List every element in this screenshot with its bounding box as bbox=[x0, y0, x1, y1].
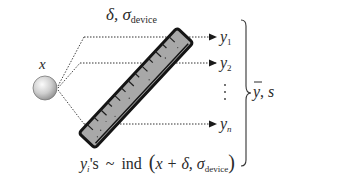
device-parameters-label: δ, σdevice bbox=[106, 6, 157, 25]
object-ball-icon bbox=[33, 76, 57, 100]
bias-sigma-symbol: δ, σ bbox=[106, 5, 131, 24]
ruler-icon bbox=[79, 28, 193, 148]
measurement-diagram: δ, σdevice x y1 y2 yn y, s yi's ~ ind (x… bbox=[0, 0, 337, 183]
output-y2: y2 bbox=[220, 55, 232, 73]
sd-symbol: s bbox=[268, 83, 274, 100]
ellipsis-vertical-icon bbox=[224, 84, 226, 100]
output-yn: yn bbox=[220, 116, 232, 134]
model-formula: yi's ~ ind (x + δ, σdevice) bbox=[80, 152, 235, 174]
output-y1: y1 bbox=[220, 29, 232, 47]
device-subscript: device bbox=[131, 14, 157, 25]
brace-icon bbox=[241, 20, 251, 166]
summary-statistics-label: y, s bbox=[253, 84, 274, 100]
object-label: x bbox=[39, 57, 46, 72]
fan-lines bbox=[58, 37, 84, 124]
